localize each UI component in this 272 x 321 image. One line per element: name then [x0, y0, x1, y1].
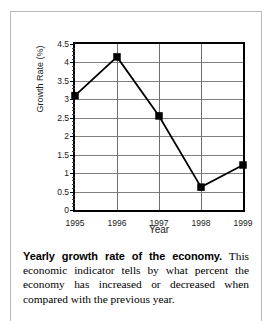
- y-tick-label: 0: [64, 205, 69, 215]
- caption-lead-in: Yearly growth rate of the economy.: [23, 250, 222, 262]
- series-line: [75, 57, 243, 187]
- data-point-marker: [71, 92, 79, 100]
- data-point-marker: [239, 161, 247, 169]
- figure-caption: Yearly growth rate of the economy. This …: [23, 249, 249, 306]
- y-tick-label: 4: [64, 57, 69, 67]
- y-tick-mark: [70, 210, 75, 211]
- y-tick-label: 2: [64, 131, 69, 141]
- y-tick-label: 3: [64, 94, 69, 104]
- data-point-marker: [155, 112, 163, 120]
- y-axis-title: Growth Rate (%): [35, 29, 45, 129]
- y-tick-label: 2.5: [57, 113, 69, 123]
- data-point-marker: [113, 53, 121, 61]
- y-tick-label: 4.5: [57, 39, 69, 49]
- y-tick-label: 0.5: [57, 187, 69, 197]
- y-tick-label: 1.5: [57, 150, 69, 160]
- data-series: [75, 44, 243, 210]
- x-axis-title: Year: [73, 224, 245, 235]
- y-tick-label: 3.5: [57, 76, 69, 86]
- data-point-marker: [197, 183, 205, 191]
- plot-frame: 00.511.522.533.544.5 1995199619971998199…: [73, 42, 245, 212]
- figure-panel: Growth Rate (%) 00.511.522.533.544.5 199…: [10, 11, 262, 321]
- y-tick-label: 1: [64, 168, 69, 178]
- chart-area: Growth Rate (%) 00.511.522.533.544.5 199…: [11, 12, 261, 239]
